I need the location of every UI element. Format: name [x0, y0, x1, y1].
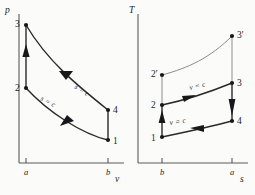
pv-state-label-3: 3	[15, 19, 20, 29]
ts-faint-curve-2p-3p	[162, 36, 232, 75]
pv-diagram: p v a b s = c s = c 3 2 4 1	[4, 5, 124, 184]
pv-state-dot-1	[106, 138, 110, 142]
ts-state-label-2p: 2'	[151, 69, 158, 79]
pv-state-dot-2	[24, 86, 28, 90]
ts-tick-label-a: a	[230, 167, 234, 177]
ts-label-upper-curve: v = c	[189, 80, 207, 92]
pv-tick-label-b: b	[106, 167, 110, 177]
ts-x-axis-label: s	[240, 174, 244, 184]
pv-arrow-2-3-up	[22, 44, 29, 57]
ts-arrow-2-3	[182, 95, 196, 102]
pv-state-dot-3	[24, 23, 28, 27]
ts-state-dot-1	[160, 135, 164, 139]
ts-arrow-1-2-up	[159, 110, 166, 123]
pv-process-1-2	[26, 88, 108, 140]
ts-state-dot-3p	[230, 34, 234, 38]
pv-x-axis-label: v	[115, 174, 120, 184]
ts-arrow-3-4-down	[229, 99, 236, 116]
ts-label-lower-curve: v = c	[169, 116, 187, 127]
ts-state-label-2: 2	[151, 100, 156, 110]
thermodynamic-cycle-figure: p v a b s = c s = c 3 2 4 1	[0, 0, 255, 195]
ts-state-dot-2p	[160, 73, 164, 77]
pv-state-label-2: 2	[15, 83, 20, 93]
ts-state-label-1: 1	[151, 133, 156, 143]
pv-state-dot-4	[106, 108, 110, 112]
ts-y-axis-label: T	[129, 5, 135, 15]
figure-root: p v a b s = c s = c 3 2 4 1	[0, 0, 255, 195]
ts-state-dot-2	[160, 103, 164, 107]
Ts-diagram: T s b a v = c v = c 3' 2' 3	[129, 5, 248, 184]
pv-state-label-4: 4	[113, 105, 118, 115]
pv-label-lower-curve: s = c	[39, 95, 57, 110]
ts-state-label-3: 3	[237, 78, 242, 88]
ts-tick-label-b: b	[160, 167, 164, 177]
pv-label-upper-curve: s = c	[73, 83, 91, 99]
pv-state-label-1: 1	[113, 136, 118, 146]
ts-state-dot-3	[230, 81, 234, 85]
ts-state-label-3p: 3'	[237, 30, 244, 40]
ts-state-dot-4	[230, 119, 234, 123]
ts-state-label-4: 4	[237, 116, 242, 126]
pv-process-3-4	[26, 25, 108, 110]
pv-y-axis-label: p	[4, 5, 10, 15]
pv-tick-label-a: a	[24, 167, 28, 177]
